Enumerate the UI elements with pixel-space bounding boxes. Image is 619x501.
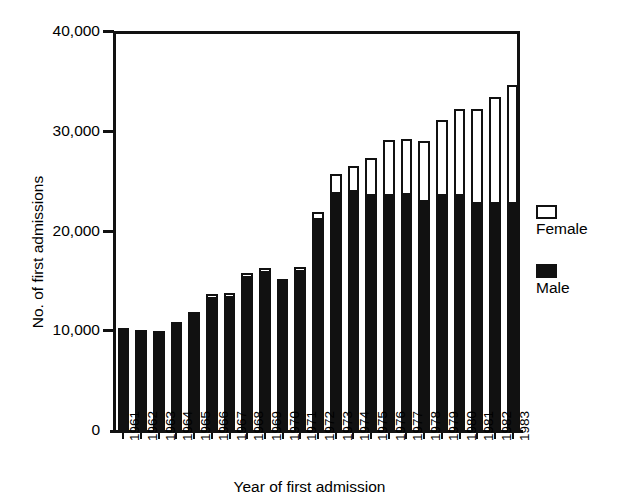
bar-segment-male (454, 195, 466, 430)
bar-group (171, 31, 183, 430)
legend-item-male: Male (536, 264, 619, 297)
bar-group (348, 31, 360, 430)
bar-group (489, 31, 501, 430)
bar-segment-female (507, 85, 519, 204)
x-axis-tick (229, 433, 231, 439)
x-axis-tick (122, 433, 124, 439)
legend-item-female: Female (536, 205, 619, 238)
bar-group (365, 31, 377, 430)
bar-segment-male (259, 272, 271, 430)
bar-segment-female (383, 140, 395, 196)
bar-group (436, 31, 448, 430)
bar-segment-female (365, 158, 377, 196)
x-axis-tick (158, 433, 160, 439)
bar-segment-female (330, 174, 342, 194)
bar-segment-male (294, 271, 306, 430)
x-axis-tick (246, 433, 248, 439)
bar-group (401, 31, 413, 430)
y-axis-tick-label: 20,000 (0, 223, 106, 239)
x-axis-tick (317, 433, 319, 439)
legend-label-male: Male (536, 279, 619, 297)
bar-group (312, 31, 324, 430)
bar-group (224, 31, 236, 430)
x-axis-tick (388, 433, 390, 439)
x-axis-tick (512, 433, 514, 439)
y-axis-tick-label: 10,000 (0, 322, 106, 338)
bar-series-container (113, 31, 520, 430)
x-axis-title: Year of first admission (0, 478, 619, 496)
bar-segment-female (259, 268, 271, 273)
x-axis-tick (193, 433, 195, 439)
bar-group (507, 31, 519, 430)
bar-segment-female (277, 279, 289, 283)
bar-segment-male (507, 203, 519, 430)
bar-segment-male (312, 219, 324, 430)
bar-group (277, 31, 289, 430)
x-axis-tick (441, 433, 443, 439)
open-square-icon (536, 205, 557, 219)
bar-segment-female (241, 273, 253, 278)
bar-group (188, 31, 200, 430)
bar-group (471, 31, 483, 430)
x-axis-tick (459, 433, 461, 439)
bar-segment-female (312, 212, 324, 220)
x-axis-tick (299, 433, 301, 439)
bar-segment-male (277, 282, 289, 430)
bar-group (330, 31, 342, 430)
filled-square-icon (536, 264, 557, 278)
y-axis-tick-label: 0 (0, 422, 106, 438)
bar-segment-female (454, 109, 466, 196)
bar-segment-male (471, 203, 483, 430)
bar-segment-female (206, 294, 218, 299)
bar-segment-male (436, 195, 448, 430)
chart-figure: No. of first admissions 40,00030,00020,0… (0, 0, 619, 501)
bar-group (153, 31, 165, 430)
x-axis-tick (175, 433, 177, 439)
bar-segment-female (418, 141, 430, 202)
bar-group (118, 31, 130, 430)
bar-group (241, 31, 253, 430)
bar-group (294, 31, 306, 430)
bar-segment-female (436, 120, 448, 196)
x-axis-tick (140, 433, 142, 439)
x-axis-tick (405, 433, 407, 439)
x-axis-tick (335, 433, 337, 439)
x-axis-tick (423, 433, 425, 439)
x-axis-tick-label: 1983 (518, 411, 532, 441)
legend-label-female: Female (536, 220, 619, 238)
x-axis-tick (352, 433, 354, 439)
chart-legend: Female Male (536, 205, 619, 297)
bar-group (454, 31, 466, 430)
bar-segment-female (401, 139, 413, 195)
bar-group (259, 31, 271, 430)
bar-segment-female (294, 267, 306, 272)
x-axis-tick (494, 433, 496, 439)
bar-segment-male (401, 194, 413, 430)
bar-group (383, 31, 395, 430)
bar-segment-male (489, 203, 501, 430)
bar-segment-male (348, 191, 360, 430)
bar-segment-female (471, 109, 483, 204)
bar-group (135, 31, 147, 430)
bar-segment-female (348, 166, 360, 192)
bar-group (206, 31, 218, 430)
bar-segment-male (241, 277, 253, 430)
y-axis-tick-label: 30,000 (0, 123, 106, 139)
bar-group (418, 31, 430, 430)
x-axis-tick (476, 433, 478, 439)
x-axis-tick (282, 433, 284, 439)
x-axis-tick (370, 433, 372, 439)
x-axis-tick (211, 433, 213, 439)
bar-segment-male (330, 193, 342, 430)
bar-segment-male (418, 201, 430, 430)
bar-segment-female (224, 293, 236, 298)
bar-segment-male (383, 195, 395, 430)
bar-segment-female (489, 97, 501, 204)
x-axis-tick (264, 433, 266, 439)
bar-segment-male (365, 195, 377, 430)
y-axis-tick-label: 40,000 (0, 23, 106, 39)
